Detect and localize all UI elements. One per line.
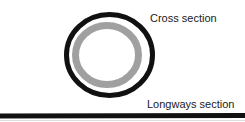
cross-section-label: Cross section	[150, 12, 217, 24]
longways-section-line	[0, 116, 245, 117]
longways-section-label: Longways section	[147, 98, 234, 110]
inner-ring	[76, 26, 139, 85]
